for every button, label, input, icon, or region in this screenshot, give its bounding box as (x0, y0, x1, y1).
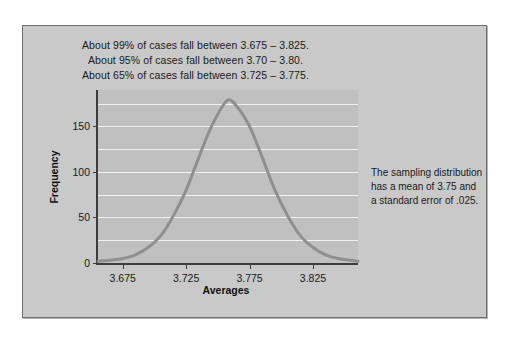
x-tick-label: 3.725 (173, 272, 199, 284)
x-tick-mark (186, 263, 187, 269)
figure-frame: About 99% of cases fall between 3.675 – … (22, 25, 487, 318)
side-note-line-2: has a mean of 3.75 and (371, 180, 489, 194)
sampling-distribution-note: The sampling distribution has a mean of … (371, 166, 489, 208)
x-tick-mark (250, 263, 251, 269)
x-tick-mark (313, 263, 314, 269)
y-tick-label: 0 (84, 257, 90, 269)
x-axis-title: Averages (203, 284, 250, 296)
annotation-line-65: About 65% of cases fall between 3.725 – … (23, 68, 368, 83)
plot-area: 050100150 3.6753.7253.7753.825 (96, 90, 358, 265)
y-tick-mark (93, 263, 98, 264)
annotation-line-99: About 99% of cases fall between 3.675 – … (23, 38, 368, 53)
annotation-block: About 99% of cases fall between 3.675 – … (23, 38, 368, 83)
y-axis-title: Frequency (48, 150, 60, 203)
side-note-line-3: a standard error of .025. (371, 194, 489, 208)
x-tick-mark (123, 263, 124, 269)
x-tick-label: 3.775 (236, 272, 262, 284)
y-tick-label: 50 (78, 211, 90, 223)
y-tick-label: 100 (72, 166, 90, 178)
x-tick-label: 3.825 (300, 272, 326, 284)
annotation-line-95: About 95% of cases fall between 3.70 – 3… (23, 53, 368, 68)
x-tick-label: 3.675 (110, 272, 136, 284)
y-tick-label: 150 (72, 120, 90, 132)
side-note-line-1: The sampling distribution (371, 166, 489, 180)
normal-distribution-curve (98, 90, 358, 263)
